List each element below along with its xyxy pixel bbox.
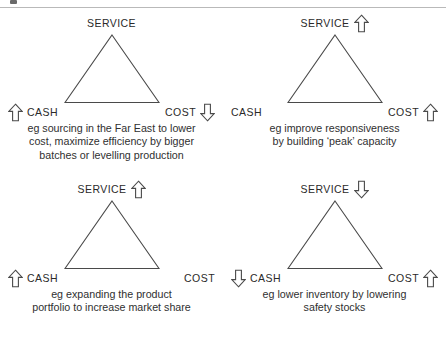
vertex-label-cash: CASH [250,273,281,284]
vertex-cash: CASH [8,269,58,288]
vertex-cost: COST [184,273,215,284]
vertex-label-cost: COST [184,273,215,284]
vertex-service: SERVICE [300,180,368,199]
tradeoff-triangle [64,200,160,270]
panel-4: SERVICECASHCOSTeg lower inventory by low… [223,175,446,341]
panel-1: SERVICECASHCOSTeg sourcing in the Far Ea… [0,9,223,175]
vertex-label-service: SERVICE [77,184,126,195]
base-label-row: CASHCOST [223,101,446,123]
horizontal-rule [0,7,446,8]
triangle-block: SERVICECASHCOST [0,13,223,121]
arrow-up-icon-service [131,180,146,199]
caption-line: eg expanding the product [8,288,215,301]
tradeoff-triangle [64,34,160,104]
vertex-label-service: SERVICE [87,18,136,29]
arrow-up-icon-cost [423,269,438,288]
arrow-up-icon-cost [423,103,438,122]
vertex-label-cash: CASH [27,273,58,284]
vertex-label-cost: COST [165,107,196,118]
vertex-label-service: SERVICE [300,18,349,29]
arrow-up-icon-cash [8,269,23,288]
caption-line: batches or levelling production [8,149,215,162]
caption-line: eg lower inventory by lowering [231,288,438,301]
vertex-cash: CASH [8,103,58,122]
vertex-label-cost: COST [388,107,419,118]
base-label-row: CASHCOST [223,267,446,289]
apex-label-row: SERVICE [0,179,223,199]
panel-2: SERVICECASHCOSTeg improve responsiveness… [223,9,446,175]
arrow-down-icon-cost [200,103,215,122]
vertex-cost: COST [388,103,438,122]
panel-caption: eg improve responsivenessby building ‘pe… [231,122,438,149]
corner-cash: CASH [8,267,58,289]
vertex-cost: COST [165,103,215,122]
caption-line: portfolio to increase market share [8,301,215,314]
vertex-label-cash: CASH [27,107,58,118]
corner-cash: CASH [231,267,281,289]
triangle-block: SERVICECASHCOST [223,13,446,121]
clipped-glyph-mark [10,0,17,4]
base-label-row: CASHCOST [0,101,223,123]
arrow-up-icon-cash [8,103,23,122]
panel-caption: eg expanding the productportfolio to inc… [8,288,215,315]
apex-label-row: SERVICE [223,179,446,199]
caption-line: cost, maximize efficiency by bigger [8,135,215,148]
arrow-down-icon-cash [231,269,246,288]
vertex-cash: CASH [231,269,281,288]
cropped-caption-artifact [0,0,446,9]
tradeoff-triangle [287,34,383,104]
caption-line: by building ‘peak’ capacity [231,135,438,148]
apex-label-row: SERVICE [223,13,446,33]
panel-caption: eg lower inventory by loweringsafety sto… [231,288,438,315]
vertex-service: SERVICE [300,14,368,33]
vertex-label-cost: COST [388,273,419,284]
panel-caption: eg sourcing in the Far East to lowercost… [8,122,215,162]
vertex-service: SERVICE [87,18,136,29]
panel-3: SERVICECASHCOSTeg expanding the productp… [0,175,223,341]
corner-cost: COST [388,267,438,289]
caption-line: safety stocks [231,301,438,314]
triangle-block: SERVICECASHCOST [0,179,223,287]
caption-line: eg improve responsiveness [231,122,438,135]
triangle-block: SERVICECASHCOST [223,179,446,287]
vertex-label-service: SERVICE [300,184,349,195]
vertex-service: SERVICE [77,180,145,199]
corner-cost: COST [184,267,215,289]
vertex-label-cash: CASH [231,107,262,118]
caption-line: eg sourcing in the Far East to lower [8,122,215,135]
corner-cash: CASH [231,101,262,123]
corner-cost: COST [165,101,215,123]
vertex-cash: CASH [231,107,262,118]
tradeoff-triangle [287,200,383,270]
apex-label-row: SERVICE [0,13,223,33]
base-label-row: CASHCOST [0,267,223,289]
corner-cost: COST [388,101,438,123]
arrow-down-icon-service [354,180,369,199]
arrow-up-icon-service [354,14,369,33]
corner-cash: CASH [8,101,58,123]
vertex-cost: COST [388,269,438,288]
triangle-panel-grid: SERVICECASHCOSTeg sourcing in the Far Ea… [0,9,446,341]
